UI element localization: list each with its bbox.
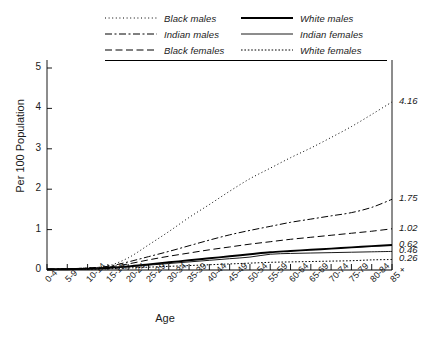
x-axis-label: Age xyxy=(0,312,330,324)
series-end-value-label: 4.16 xyxy=(399,95,418,106)
series-end-value-label: 1.02 xyxy=(399,222,418,233)
plot-area xyxy=(0,0,439,340)
series-end-value-label: 1.75 xyxy=(399,192,418,203)
y-axis-tick-label: 3 xyxy=(17,142,41,153)
y-axis-tick-label: 0 xyxy=(17,263,41,274)
series-line-black-males xyxy=(47,102,392,269)
y-axis-tick-label: 5 xyxy=(17,61,41,72)
series-end-value-label: 0.26 xyxy=(399,252,418,263)
y-axis-tick-label: 1 xyxy=(17,223,41,234)
y-axis-tick-label: 2 xyxy=(17,182,41,193)
y-axis-tick-label: 4 xyxy=(17,101,41,112)
chart-figure: Black malesIndian malesBlack females Whi… xyxy=(0,0,439,340)
